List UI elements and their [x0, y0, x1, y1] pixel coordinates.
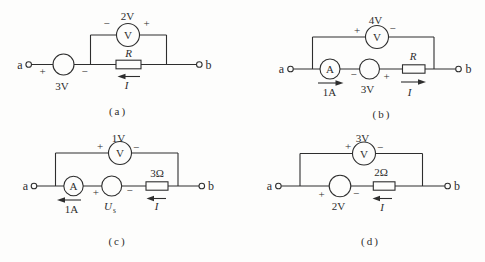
circuit-a: a b + − 3V − 2V + V R I (a) [17, 10, 211, 118]
voltmeter-plus-sign: + [97, 140, 103, 152]
source-value-label: 2V [332, 200, 346, 212]
circuits-svg: a b + − 3V − 2V + V R I (a) a b A 1A − +… [0, 0, 485, 262]
voltage-source-symbol [360, 59, 380, 79]
current-label: I [407, 86, 413, 98]
ammeter-symbol: A [70, 180, 78, 192]
voltmeter-reading: 2V [121, 10, 135, 22]
terminal-a-node [288, 66, 294, 72]
terminal-b-label: b [208, 179, 214, 193]
resistor-symbol [116, 60, 141, 69]
voltage-source-symbol [329, 175, 351, 197]
voltmeter-reading: 1V [112, 132, 126, 144]
terminal-a-label: a [267, 179, 273, 193]
current-arrow-head [418, 79, 426, 84]
voltmeter-minus-sign: − [389, 22, 395, 34]
terminal-a-node [26, 62, 32, 68]
source-value-subscript: s [113, 206, 116, 215]
resistor-label: R [124, 47, 132, 59]
voltmeter-symbol: V [373, 31, 381, 43]
resistor-label: 2Ω [374, 166, 388, 178]
resistor-label: R [409, 50, 417, 62]
resistor-symbol [403, 65, 426, 73]
terminal-a-node [276, 183, 282, 189]
circuit-figure: a b + − 3V − 2V + V R I (a) a b A 1A − +… [0, 0, 485, 262]
voltmeter-reading: 4V [369, 14, 383, 26]
terminal-a-label: a [279, 62, 285, 76]
source-value-label: U [104, 200, 113, 212]
source-plus-sign: + [383, 70, 389, 82]
current-arrow-head [373, 196, 381, 201]
voltmeter-plus-sign: + [345, 140, 351, 152]
source-minus-sign: − [350, 68, 356, 80]
caption-a: (a) [109, 105, 127, 118]
ammeter-symbol: A [326, 63, 334, 75]
terminal-b-node [199, 183, 205, 189]
current-arrow-head [147, 196, 155, 201]
terminal-b-node [197, 62, 203, 68]
voltmeter-plus-sign: + [143, 17, 149, 29]
source-value-label: 3V [55, 80, 69, 92]
source-value-label: 3V [361, 83, 375, 95]
resistor-label: 3Ω [150, 167, 164, 179]
terminal-a-node [31, 183, 37, 189]
terminal-a-label: a [17, 58, 23, 72]
resistor-symbol [373, 182, 395, 190]
voltmeter-symbol: V [124, 29, 132, 41]
voltmeter-plus-sign: + [354, 24, 360, 36]
source-plus-sign: + [318, 188, 324, 200]
circuit-c: a b A 1A + − U s + 1V − V 3Ω I (c) [23, 132, 214, 248]
source-plus-sign: + [93, 186, 99, 198]
voltmeter-minus-sign: − [133, 141, 139, 153]
circuit-b: a b A 1A − + 3V + 4V − V R I (b) [279, 14, 472, 121]
voltmeter-reading: 3V [356, 132, 370, 144]
source-plus-sign: + [39, 65, 45, 77]
source-minus-sign: − [126, 184, 132, 196]
source-minus-sign: − [353, 187, 359, 199]
voltage-source-symbol [102, 176, 122, 196]
terminal-b-label: b [454, 179, 460, 193]
resistor-symbol [146, 182, 168, 190]
terminal-b-label: b [466, 62, 472, 76]
caption-d: (d) [361, 235, 380, 248]
current-label: I [124, 79, 130, 91]
voltmeter-minus-sign: − [377, 141, 383, 153]
circuit-d: a b + − 2V + 3V − V 2Ω I (d) [267, 132, 460, 248]
caption-c: (c) [108, 235, 126, 248]
source-minus-sign: − [81, 65, 87, 77]
terminal-b-label: b [206, 58, 212, 72]
voltmeter-minus-sign: − [103, 17, 109, 29]
ammeter-reading: 1A [65, 203, 79, 215]
current-label: I [154, 200, 160, 212]
terminal-b-node [445, 183, 451, 189]
voltmeter-symbol: V [360, 148, 368, 160]
voltmeter-symbol: V [116, 147, 124, 159]
ammeter-reading: 1A [323, 86, 337, 98]
ammeter-arrow-head [336, 80, 344, 85]
terminal-a-label: a [23, 179, 29, 193]
current-label: I [379, 201, 385, 213]
voltage-source-symbol [53, 54, 74, 75]
terminal-b-node [456, 66, 462, 72]
caption-b: (b) [373, 108, 392, 121]
